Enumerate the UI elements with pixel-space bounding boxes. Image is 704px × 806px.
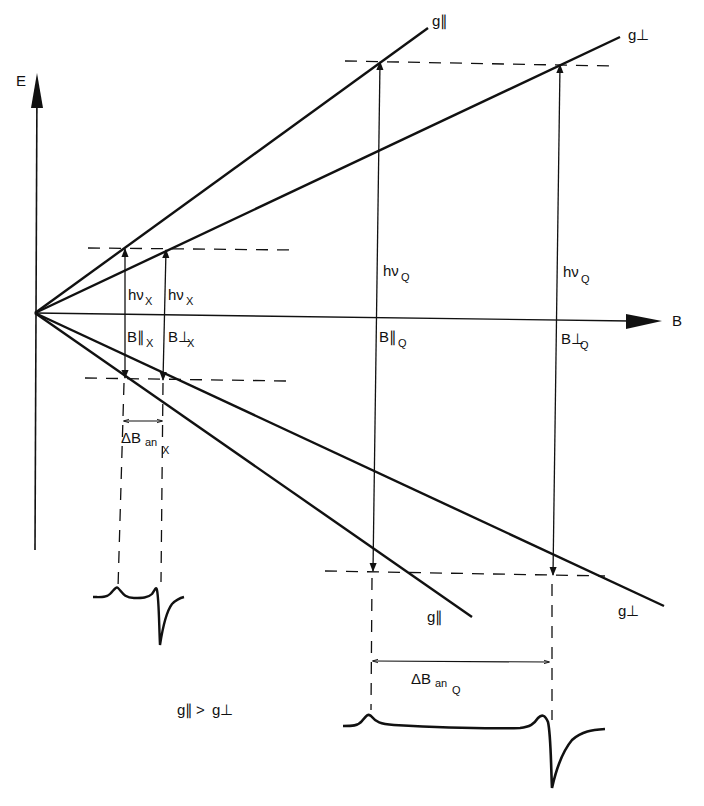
qband-upper-dash — [345, 61, 612, 66]
g-condition-label: g∥ > g⊥ — [177, 701, 233, 719]
svg-text:Q: Q — [581, 273, 590, 285]
svg-text:g∥: g∥ — [427, 608, 443, 626]
svg-text:hν: hν — [128, 286, 144, 303]
xband-b-perp-label: B⊥ X — [168, 328, 195, 349]
svg-text:B∥: B∥ — [379, 328, 397, 346]
svg-text:an: an — [435, 677, 447, 689]
svg-text:X: X — [146, 337, 154, 349]
svg-text:Q: Q — [580, 339, 589, 351]
zeeman-lines — [35, 28, 664, 617]
svg-text:Q: Q — [398, 337, 407, 349]
svg-text:X: X — [145, 295, 153, 307]
field-axis-arrow-icon — [626, 314, 662, 329]
xband-par-drop — [118, 383, 124, 588]
xband-spectrum — [93, 587, 184, 645]
qband-hv-perp-label: hν Q — [563, 263, 590, 285]
qband-spectrum — [343, 715, 605, 788]
energy-axis-label: E — [16, 72, 26, 89]
field-axis — [35, 313, 662, 329]
svg-text:g⊥: g⊥ — [618, 602, 639, 619]
qband-b-perp-label: B⊥ Q — [561, 330, 589, 351]
svg-text:hν: hν — [168, 286, 184, 303]
svg-text:ΔB: ΔB — [411, 670, 431, 687]
svg-text:X: X — [186, 295, 194, 307]
svg-text:g⊥: g⊥ — [628, 26, 649, 43]
svg-text:g∥: g∥ — [177, 701, 193, 719]
svg-text:g∥: g∥ — [432, 12, 448, 30]
svg-text:ΔB: ΔB — [121, 429, 141, 446]
qband-par-drop — [371, 578, 372, 710]
svg-text:an: an — [145, 436, 157, 448]
qband-lower-dash — [325, 571, 605, 576]
svg-text:B∥: B∥ — [127, 328, 145, 346]
qband-par-arrow — [373, 62, 380, 571]
line-label-g-par-upper: g∥ — [432, 12, 448, 30]
xband-hv-par-label: hν X — [128, 286, 153, 307]
qband-b-par-label: B∥ Q — [379, 328, 407, 349]
svg-text:hν: hν — [383, 262, 399, 279]
zeeman-diagram: E B g∥ g⊥ g∥ g⊥ hν X hν X B∥ X B⊥ X ΔB a… — [0, 0, 704, 806]
svg-text:hν: hν — [563, 263, 579, 280]
svg-text:Q: Q — [452, 684, 461, 696]
svg-text:X: X — [162, 444, 170, 456]
xband-upper-dash — [88, 248, 296, 250]
xband-lower-dash — [85, 378, 287, 381]
g-par-upper-line — [35, 28, 428, 313]
xband-perp-drop — [161, 383, 163, 582]
g-perp-lower-line — [35, 313, 664, 606]
energy-axis-arrow-icon — [31, 73, 43, 108]
xband-hv-perp-label: hν X — [168, 286, 194, 307]
svg-text:X: X — [187, 337, 195, 349]
g-par-lower-line — [35, 313, 472, 617]
line-label-g-perp-upper: g⊥ — [628, 26, 649, 43]
svg-text:g⊥: g⊥ — [212, 701, 233, 718]
svg-text:>: > — [196, 701, 205, 718]
xband-b-par-label: B∥ X — [127, 328, 154, 349]
qband-anisotropy-span — [373, 661, 549, 662]
line-label-g-par-lower: g∥ — [427, 608, 443, 626]
g-perp-upper-line — [35, 37, 620, 313]
qband-hv-par-label: hν Q — [383, 262, 410, 283]
qband-anisotropy-label: ΔB an Q — [411, 670, 461, 696]
line-label-g-perp-lower: g⊥ — [618, 602, 639, 619]
field-axis-label: B — [672, 312, 682, 329]
svg-text:Q: Q — [401, 271, 410, 283]
